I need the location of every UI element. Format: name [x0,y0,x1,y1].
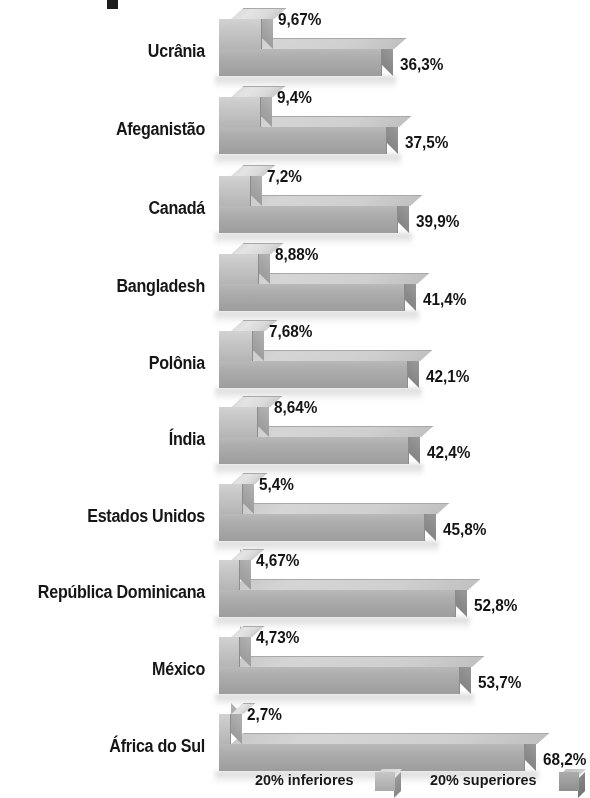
legend-item-inferiores[interactable]: 20% inferiores [255,769,401,791]
category-label: México [0,659,205,680]
value-label-inferiores: 7,2% [267,167,302,186]
category-label: Estados Unidos [0,506,205,527]
bar-inferiores[interactable] [219,407,258,437]
chart-row: Ucrânia36,3%9,67% [0,8,590,79]
bar-superiores[interactable] [219,206,398,233]
value-label-superiores: 42,1% [426,367,470,386]
bar-superiores[interactable] [219,284,405,311]
bar-inferiores[interactable] [219,331,253,361]
chart-canvas: Ucrânia36,3%9,67%Afeganistão37,5%9,4%Can… [0,0,590,798]
bar-inferiores[interactable] [219,176,251,206]
bar-inferiores[interactable] [219,560,240,590]
dark-cube-icon [559,769,585,791]
chart-row: Polônia42,1%7,68% [0,320,590,391]
chart-row: Afeganistão37,5%9,4% [0,86,590,157]
bar-superiores[interactable] [219,361,408,388]
legend-label-inferiores: 20% inferiores [255,771,354,789]
value-label-inferiores: 4,67% [256,551,300,570]
value-label-inferiores: 7,68% [269,322,313,341]
category-label: Canadá [0,198,205,219]
value-label-superiores: 37,5% [405,133,449,152]
value-label-superiores: 42,4% [427,443,471,462]
bar-superiores[interactable] [219,667,460,694]
category-label: Polônia [0,353,205,374]
chart-row: Índia42,4%8,64% [0,396,590,467]
chart-row: Estados Unidos45,8%5,4% [0,473,590,544]
value-label-superiores: 41,4% [423,290,467,309]
bar-inferiores[interactable] [219,714,231,744]
bar-superiores[interactable] [219,127,387,154]
bar-inferiores[interactable] [219,19,262,49]
value-label-superiores: 36,3% [400,55,444,74]
value-label-superiores: 45,8% [443,520,487,539]
chart-row: República Dominicana52,8%4,67% [0,549,590,620]
value-label-inferiores: 5,4% [259,475,294,494]
chart-row: Canadá39,9%7,2% [0,165,590,236]
bar-superiores[interactable] [219,590,456,617]
chart-row: México53,7%4,73% [0,626,590,697]
value-label-superiores: 39,9% [416,212,460,231]
category-label: Índia [0,429,205,450]
legend-item-superiores[interactable]: 20% superiores [430,769,585,791]
category-label: África do Sul [0,736,205,757]
bar-superiores[interactable] [219,437,409,464]
legend-label-superiores: 20% superiores [430,771,537,789]
value-label-inferiores: 4,73% [256,628,300,647]
bar-superiores[interactable] [219,49,382,76]
category-label: Bangladesh [0,276,205,297]
category-label: Afeganistão [0,119,205,140]
value-label-inferiores: 8,88% [275,245,319,264]
category-label: República Dominicana [0,582,205,603]
value-label-inferiores: 8,64% [274,398,318,417]
bar-superiores[interactable] [219,514,425,541]
value-label-inferiores: 9,67% [278,10,322,29]
bar-inferiores[interactable] [219,254,259,284]
value-label-inferiores: 9,4% [277,88,312,107]
light-cube-icon [375,769,401,791]
bar-inferiores[interactable] [219,637,240,667]
bar-inferiores[interactable] [219,484,243,514]
value-label-inferiores: 2,7% [247,705,282,724]
bar-inferiores[interactable] [219,97,261,127]
chart-row: Bangladesh41,4%8,88% [0,243,590,314]
category-label: Ucrânia [0,41,205,62]
chart-legend: 20% inferiores 20% superiores [0,762,590,798]
value-label-superiores: 52,8% [474,596,518,615]
value-label-superiores: 53,7% [478,673,522,692]
